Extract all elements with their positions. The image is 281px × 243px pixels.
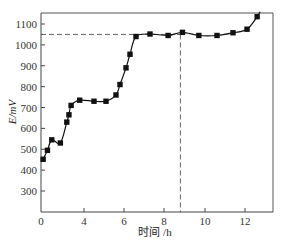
data-point-marker [133, 34, 138, 39]
data-point-marker [103, 99, 108, 104]
y-tick-label: 1000 [15, 39, 38, 51]
data-point-marker [180, 30, 185, 35]
x-tick-label: 4 [81, 215, 87, 227]
y-tick-label: 600 [21, 122, 38, 134]
x-ticks: 04681012 [38, 208, 250, 227]
y-tick-label: 800 [21, 81, 38, 93]
data-point-marker [127, 52, 132, 57]
data-point-marker [58, 140, 63, 145]
y-tick-label: 700 [21, 102, 38, 114]
x-tick-label: 0 [38, 215, 44, 227]
x-tick-label: 6 [121, 215, 127, 227]
data-point-marker [45, 148, 50, 153]
y-axis-label: E/mV [6, 99, 18, 126]
data-point-marker [117, 82, 122, 87]
x-tick-label: 10 [200, 215, 212, 227]
chart: 30040050060070080090010001100 04681012 E… [0, 0, 281, 243]
data-point-marker [165, 33, 170, 38]
y-tick-label: 300 [21, 185, 38, 197]
data-point-marker [40, 157, 45, 162]
data-point-marker [68, 103, 73, 108]
y-tick-label: 400 [21, 164, 38, 176]
data-point-marker [244, 27, 249, 32]
data-point-marker [147, 31, 152, 36]
plot-frame [41, 13, 273, 212]
y-tick-label: 1100 [15, 18, 37, 30]
data-point-marker [254, 14, 259, 19]
data-point-marker [77, 97, 82, 102]
data-point-marker [91, 99, 96, 104]
y-tick-label: 900 [21, 60, 38, 72]
data-point-marker [214, 33, 219, 38]
y-tick-label: 500 [21, 143, 38, 155]
data-point-marker [66, 112, 71, 117]
x-axis-label: 时间 /h [138, 226, 172, 238]
data-point-marker [64, 119, 69, 124]
data-point-marker [49, 137, 54, 142]
data-point-marker [230, 30, 235, 35]
data-markers [40, 14, 259, 162]
data-point-marker [113, 92, 118, 97]
data-point-marker [196, 33, 201, 38]
reference-lines [41, 34, 180, 212]
data-point-marker [123, 65, 128, 70]
x-tick-label: 12 [240, 215, 251, 227]
